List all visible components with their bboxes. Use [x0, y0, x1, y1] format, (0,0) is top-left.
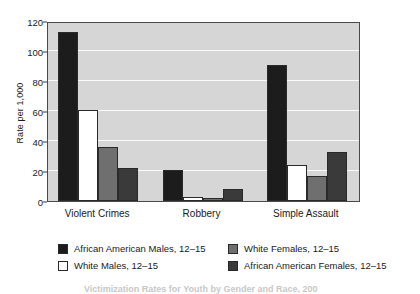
bar	[78, 110, 98, 202]
chart-legend: African American Males, 12–15White Males…	[58, 243, 408, 277]
legend-item: African American Males, 12–15	[58, 243, 205, 254]
bar-group	[163, 23, 243, 201]
category-label: Simple Assault	[273, 208, 339, 219]
legend-swatch	[228, 261, 238, 271]
bar	[183, 197, 203, 202]
y-tick-label: 120	[3, 17, 43, 28]
legend-label: White Males, 12–15	[74, 260, 158, 271]
y-tick-label: 60	[3, 107, 43, 118]
legend-item: White Males, 12–15	[58, 260, 158, 271]
legend-item: White Females, 12–15	[228, 243, 339, 254]
bar	[98, 147, 118, 201]
bar	[223, 189, 243, 201]
bar-group	[267, 23, 347, 201]
y-tick-label: 40	[3, 137, 43, 148]
legend-item: African American Females, 12–15	[228, 260, 387, 271]
bar	[203, 198, 223, 201]
legend-label: African American Males, 12–15	[74, 243, 205, 254]
bar	[327, 152, 347, 202]
y-tick-label: 20	[3, 167, 43, 178]
bar	[267, 65, 287, 202]
y-tick-label: 80	[3, 77, 43, 88]
legend-swatch	[228, 244, 238, 254]
plot-area	[47, 22, 360, 202]
figure-caption: Victimization Rates for Youth by Gender …	[84, 284, 420, 294]
y-tick-label: 0	[3, 197, 43, 208]
y-tick-label: 100	[3, 47, 43, 58]
legend-label: African American Females, 12–15	[244, 260, 387, 271]
legend-label: White Females, 12–15	[244, 243, 339, 254]
bar	[287, 165, 307, 201]
bar	[58, 32, 78, 202]
bar	[307, 176, 327, 202]
category-label: Robbery	[183, 208, 221, 219]
bar-group	[58, 23, 138, 201]
bar	[163, 170, 183, 202]
legend-swatch	[58, 261, 68, 271]
category-label: Violent Crimes	[65, 208, 130, 219]
bar	[118, 168, 138, 201]
legend-swatch	[58, 244, 68, 254]
